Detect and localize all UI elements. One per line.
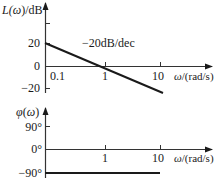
phase-y-label-neg90: −90° [18, 166, 42, 180]
mag-y-label-neg20: −20 [21, 81, 40, 95]
phase-y-label: φ(ω) [16, 105, 39, 119]
mag-y-label-20: 20 [28, 36, 40, 50]
mag-x-label-1: 1 [102, 69, 108, 83]
mag-x-label-10: 10 [152, 69, 164, 83]
phase-y-label-90: 90° [25, 120, 42, 134]
mag-x-label-0.1: 0.1 [50, 69, 65, 83]
magnitude-curve [45, 43, 163, 93]
phase-x-label-1: 1 [102, 151, 108, 165]
phase-plot: φ(ω) 90° 0° −90° 1 10 ω/(rad/s) [16, 105, 214, 180]
mag-x-label: ω/(rad/s) [174, 70, 214, 83]
bode-plot: L(ω)/dB 20 0 −20 0.1 1 10 ω/(rad/s) −20d… [0, 0, 217, 188]
magnitude-plot: L(ω)/dB 20 0 −20 0.1 1 10 ω/(rad/s) −20d… [1, 3, 214, 95]
phase-y-label-0: 0° [31, 142, 42, 156]
phase-x-label-10: 10 [152, 151, 164, 165]
phase-x-label: ω/(rad/s) [174, 152, 214, 165]
mag-y-label-0: 0 [34, 59, 40, 73]
slope-annotation: −20dB/dec [82, 36, 135, 50]
mag-y-label: L(ω)/dB [1, 3, 43, 17]
